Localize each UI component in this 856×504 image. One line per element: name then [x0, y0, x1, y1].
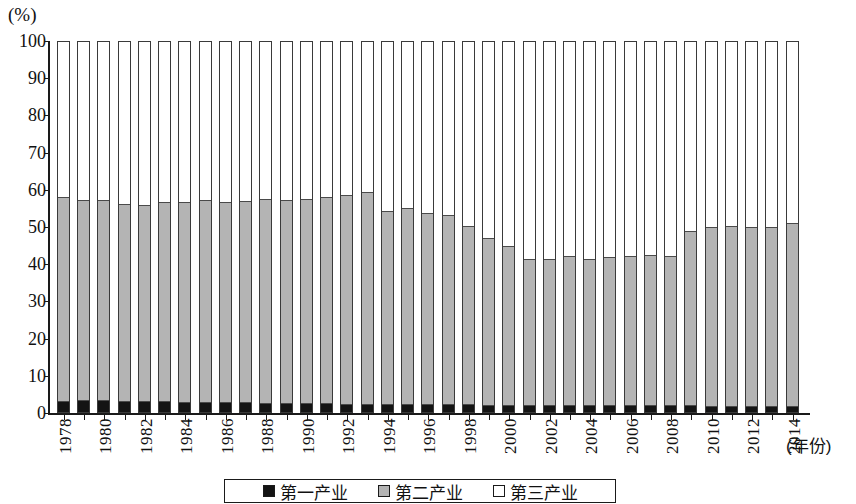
x-tick-label: 1984 [177, 418, 197, 454]
x-tick-label: 1996 [420, 418, 440, 454]
y-axis-tick-labels: 0102030405060708090100 [0, 0, 46, 420]
legend-item: 第二产业 [378, 479, 463, 504]
bar-segment-secondary-industry [604, 257, 615, 406]
bar-segment-primary-industry [58, 402, 69, 412]
x-tick-label: 1990 [299, 418, 319, 454]
legend-item: 第一产业 [263, 479, 348, 504]
bar-segment-tertiary-industry [240, 42, 251, 201]
bar-segment-primary-industry [422, 405, 433, 412]
bar-segment-tertiary-industry [341, 42, 352, 195]
bar-segment-tertiary-industry [787, 42, 798, 223]
bar-segment-primary-industry [483, 406, 494, 412]
bar [239, 41, 252, 413]
y-tick-label: 50 [2, 217, 46, 238]
bar-segment-tertiary-industry [483, 42, 494, 238]
bar-segment-primary-industry [119, 402, 130, 412]
bar-segment-tertiary-industry [645, 42, 656, 255]
bar-segment-secondary-industry [483, 238, 494, 406]
bar-segment-primary-industry [645, 406, 656, 412]
bar-segment-secondary-industry [625, 256, 636, 407]
bar-segment-secondary-industry [341, 195, 352, 405]
bar-segment-tertiary-industry [362, 42, 373, 192]
bar-segment-tertiary-industry [78, 42, 89, 200]
bar [786, 41, 799, 413]
x-tick-label: 2000 [501, 418, 521, 454]
bar [138, 41, 151, 413]
x-tick-label: 2006 [623, 418, 643, 454]
bar-segment-primary-industry [362, 405, 373, 412]
bar-segment-tertiary-industry [119, 42, 130, 204]
x-tick-label: 1998 [461, 418, 481, 454]
bar [340, 41, 353, 413]
bar-segment-secondary-industry [119, 204, 130, 402]
x-tick-label: 1980 [96, 418, 116, 454]
bar-segment-secondary-industry [281, 200, 292, 404]
bar-segment-tertiary-industry [625, 42, 636, 256]
bar-segment-primary-industry [564, 406, 575, 412]
bar-segment-tertiary-industry [98, 42, 109, 200]
bar [725, 41, 738, 413]
bar-segment-secondary-industry [382, 211, 393, 405]
bar [158, 41, 171, 413]
bar [178, 41, 191, 413]
bar-segment-primary-industry [503, 406, 514, 412]
bar [523, 41, 536, 413]
bar [765, 41, 778, 413]
bar [664, 41, 677, 413]
bar-segment-tertiary-industry [281, 42, 292, 200]
x-tick-label: 1992 [339, 418, 359, 454]
bar-segment-secondary-industry [766, 227, 777, 407]
bar-segment-tertiary-industry [382, 42, 393, 211]
bar-segment-tertiary-industry [200, 42, 211, 200]
bar-segment-secondary-industry [321, 197, 332, 404]
bar [421, 41, 434, 413]
bar-segment-tertiary-industry [544, 42, 555, 259]
y-tick-label: 40 [2, 254, 46, 275]
bar [259, 41, 272, 413]
bar-segment-primary-industry [544, 406, 555, 412]
bar-segment-primary-industry [746, 407, 757, 412]
x-tick-label: 1982 [137, 418, 157, 454]
bar-segment-secondary-industry [463, 226, 474, 405]
x-tick-label: 1994 [380, 418, 400, 454]
bar [320, 41, 333, 413]
y-tick-label: 80 [2, 105, 46, 126]
black-swatch [263, 485, 275, 497]
bar-segment-secondary-industry [544, 259, 555, 406]
bar [745, 41, 758, 413]
x-tick-label: 2002 [542, 418, 562, 454]
bar-segment-secondary-industry [787, 223, 798, 408]
bar-segment-secondary-industry [179, 202, 190, 403]
bar [219, 41, 232, 413]
bar-segment-secondary-industry [362, 192, 373, 405]
bar-segment-tertiary-industry [58, 42, 69, 197]
bar-segment-tertiary-industry [260, 42, 271, 199]
bar-segment-tertiary-industry [564, 42, 575, 256]
white-swatch [493, 485, 505, 497]
y-tick-mark [44, 115, 50, 116]
bar-segment-secondary-industry [726, 226, 737, 407]
bar-segment-primary-industry [321, 404, 332, 412]
y-tick-label: 30 [2, 291, 46, 312]
bar-segment-primary-industry [78, 401, 89, 412]
bar-segment-secondary-industry [706, 227, 717, 407]
bar-segment-secondary-industry [301, 199, 312, 404]
y-tick-mark [44, 413, 50, 414]
bar [543, 41, 556, 413]
x-tick-label: 2004 [582, 418, 602, 454]
bar-segment-secondary-industry [503, 246, 514, 406]
bar-segment-primary-industry [281, 404, 292, 412]
bar-group [50, 41, 810, 413]
legend-label: 第一产业 [280, 479, 348, 504]
y-tick-mark [44, 339, 50, 340]
bar-segment-primary-industry [179, 403, 190, 412]
bar-segment-tertiary-industry [665, 42, 676, 256]
y-tick-label: 100 [2, 31, 46, 52]
bar [401, 41, 414, 413]
bar-segment-primary-industry [706, 407, 717, 412]
x-tick-label: 1978 [56, 418, 76, 454]
y-tick-mark [44, 227, 50, 228]
stacked-bar-chart: (%) 0102030405060708090100 1978198019821… [0, 0, 856, 504]
bar-segment-primary-industry [463, 405, 474, 412]
bar-segment-primary-industry [524, 406, 535, 412]
